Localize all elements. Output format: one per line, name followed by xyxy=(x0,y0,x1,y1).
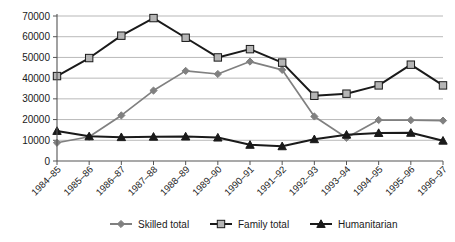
y-tick-label: 20000 xyxy=(22,114,50,125)
y-tick-label: 10000 xyxy=(22,135,50,146)
data-point-marker xyxy=(439,82,446,89)
y-tick-label: 50000 xyxy=(22,52,50,63)
legend-item-family-total[interactable]: Family total xyxy=(210,219,289,230)
chart-container: 010000200003000040000500006000070000 198… xyxy=(0,0,455,242)
data-point-marker xyxy=(217,220,224,227)
data-point-marker xyxy=(182,34,189,41)
y-tick-label: 40000 xyxy=(22,73,50,84)
chart-legend: Skilled totalFamily totalHumanitarian xyxy=(110,219,397,230)
data-point-marker xyxy=(150,14,157,21)
data-point-marker xyxy=(311,92,318,99)
data-point-marker xyxy=(118,32,125,39)
data-point-marker xyxy=(375,82,382,89)
data-point-marker xyxy=(246,45,253,52)
legend-label: Humanitarian xyxy=(338,219,397,230)
y-tick-label: 70000 xyxy=(22,11,50,22)
y-tick-label: 60000 xyxy=(22,31,50,42)
data-point-marker xyxy=(343,90,350,97)
data-point-marker xyxy=(278,59,285,66)
data-point-marker xyxy=(214,54,221,61)
data-point-marker xyxy=(85,54,92,61)
data-point-marker xyxy=(407,61,414,68)
chart-background xyxy=(0,0,455,242)
legend-label: Family total xyxy=(238,219,289,230)
y-tick-label: 0 xyxy=(44,156,50,167)
legend-label: Skilled total xyxy=(138,219,189,230)
y-tick-label: 30000 xyxy=(22,93,50,104)
line-chart: 010000200003000040000500006000070000 198… xyxy=(0,0,455,242)
